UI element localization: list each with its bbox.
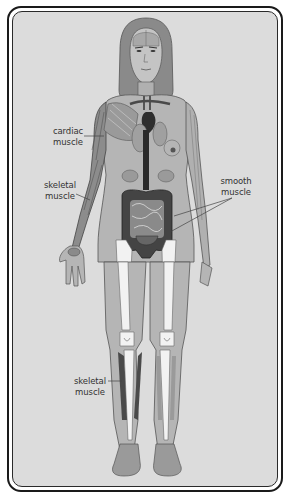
skeletal-muscle-arm-label: skeletal muscle <box>40 180 80 202</box>
skeletal-muscle-leg-label: skeletal muscle <box>70 376 110 398</box>
small-intestine <box>130 200 164 238</box>
right-foot <box>154 444 182 476</box>
neck <box>138 82 154 96</box>
lung-right <box>153 122 167 146</box>
knee-right <box>160 332 174 346</box>
cardiac-muscle-label: cardiac muscle <box>50 126 86 148</box>
human-body-illustration <box>0 0 292 499</box>
skeletal-arm-label-line2: muscle <box>40 191 80 202</box>
smooth-muscle-label: smooth muscle <box>214 176 258 198</box>
cardiac-label-line2: muscle <box>50 137 86 148</box>
skeletal-leg-label-line1: skeletal <box>70 376 110 387</box>
right-hand <box>200 262 212 286</box>
left-foot <box>112 444 140 476</box>
knee-left <box>120 332 134 346</box>
smooth-label-line2: muscle <box>214 187 258 198</box>
smooth-label-line1: smooth <box>214 176 258 187</box>
cardiac-label-line1: cardiac <box>50 126 86 137</box>
skeletal-arm-label-line1: skeletal <box>40 180 80 191</box>
skeletal-leg-label-line2: muscle <box>70 387 110 398</box>
